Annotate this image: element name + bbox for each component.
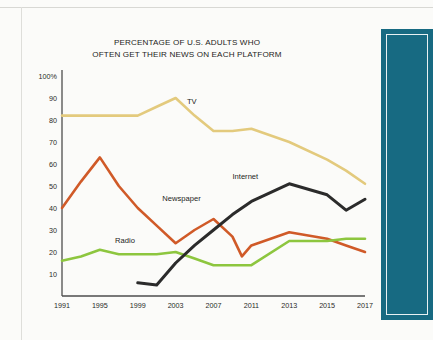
series-label-radio: Radio bbox=[115, 236, 135, 245]
y-tick-label: 80 bbox=[22, 116, 57, 125]
x-tick-label: 1991 bbox=[54, 301, 70, 310]
x-tick-label: 2011 bbox=[244, 301, 259, 310]
y-tick-label: 50 bbox=[22, 182, 57, 191]
x-tick-label: 2003 bbox=[168, 301, 184, 310]
x-tick-label: 2007 bbox=[206, 301, 222, 310]
side-panel-inner-border bbox=[386, 34, 428, 315]
series-label-internet: Internet bbox=[232, 172, 258, 181]
y-tick-label: 40 bbox=[22, 204, 57, 213]
x-tick-label: 1999 bbox=[130, 301, 146, 310]
y-tick-label: 60 bbox=[22, 160, 57, 169]
y-tick-label: 20 bbox=[22, 248, 57, 257]
y-tick-label: 100% bbox=[22, 72, 57, 81]
plot-area: 100%908070605040302010 19911995199920032… bbox=[22, 8, 370, 332]
x-tick-label: 1995 bbox=[92, 301, 108, 310]
series-line-radio bbox=[62, 239, 365, 265]
side-panel bbox=[381, 29, 433, 320]
line-chart: PERCENTAGE OF U.S. ADULTS WHO OFTEN GET … bbox=[22, 8, 370, 332]
series-label-newspaper: Newspaper bbox=[162, 194, 200, 203]
x-tick-label: 2015 bbox=[319, 301, 335, 310]
y-tick-label: 10 bbox=[22, 270, 57, 279]
y-tick-label: 90 bbox=[22, 94, 57, 103]
x-tick-label: 2017 bbox=[357, 301, 373, 310]
scanned-page: PERCENTAGE OF U.S. ADULTS WHO OFTEN GET … bbox=[0, 0, 433, 340]
series-label-tv: TV bbox=[187, 97, 197, 106]
y-tick-label: 30 bbox=[22, 226, 57, 235]
x-tick-label: 2013 bbox=[281, 301, 297, 310]
plot-svg bbox=[22, 8, 370, 332]
y-tick-label: 70 bbox=[22, 138, 57, 147]
